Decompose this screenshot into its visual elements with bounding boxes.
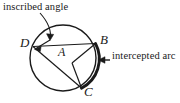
point-label-d: D: [20, 36, 29, 49]
inscribed-angle-arrowhead: [47, 34, 54, 41]
point-label-b: B: [100, 33, 108, 46]
intercepted-arc-bold: [82, 44, 100, 89]
intercepted-arc-label: intercepted arc: [112, 50, 178, 62]
angle-marker-line: [36, 40, 50, 49]
point-label-c: C: [84, 85, 93, 98]
ray-center-b: [72, 44, 95, 63]
inscribed-angle-label: inscribed angle: [3, 1, 68, 12]
point-label-a: A: [58, 46, 65, 59]
geometry-figure: inscribed angle intercepted arc D B A C: [0, 0, 180, 103]
